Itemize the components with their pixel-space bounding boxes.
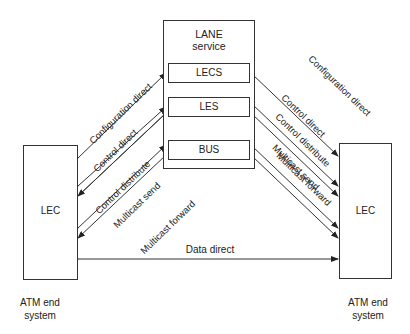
bus-label: BUS — [168, 144, 250, 155]
left-lec-label: LEC — [23, 205, 78, 216]
lane-service-title: LANE service — [163, 28, 255, 52]
les-label: LES — [168, 101, 250, 112]
left-caption: ATM end system — [10, 296, 70, 322]
right-caption: ATM end system — [338, 296, 398, 322]
lecs-label: LECS — [168, 67, 250, 78]
right-lec-label: LEC — [339, 205, 392, 216]
data-direct-label: Data direct — [170, 244, 250, 255]
